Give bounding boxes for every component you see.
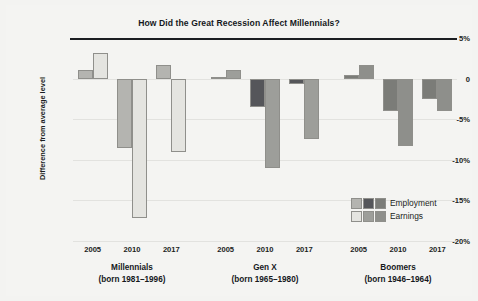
chart-title: How Did the Great Recession Affect Mille… <box>0 18 478 28</box>
group-name: Gen X <box>232 262 299 274</box>
group-name: Boomers <box>365 262 432 274</box>
group-name: Millennials <box>99 262 166 274</box>
bar-earnings <box>304 79 319 140</box>
bar-employment <box>78 70 93 79</box>
group-caption: Millennials(born 1981–1996) <box>99 262 166 285</box>
group-caption: Boomers(born 1946–1964) <box>365 262 432 285</box>
bar-group <box>73 38 191 241</box>
bar-employment <box>156 65 171 79</box>
y-axis-title: Difference from average level <box>38 34 47 224</box>
bar-earnings <box>93 53 108 78</box>
x-tick-label: 2017 <box>296 245 313 254</box>
y-tick-label: -20% <box>428 237 470 246</box>
x-tick-label: 2005 <box>350 245 367 254</box>
y-tick-label: -10% <box>428 155 470 164</box>
bar-earnings <box>171 79 186 152</box>
gridline <box>73 241 457 242</box>
x-axis-tick-labels: 200520102017200520102017200520102017 <box>73 245 457 257</box>
chart-figure: How Did the Great Recession Affect Mille… <box>0 0 478 301</box>
x-tick-label: 2005 <box>84 245 101 254</box>
group-birth-years: (born 1981–1996) <box>99 274 166 286</box>
bar-earnings <box>359 65 374 79</box>
legend-swatch <box>375 198 386 209</box>
bar-earnings <box>226 70 241 78</box>
chart-legend: Employment Earnings <box>351 197 437 223</box>
legend-swatch <box>363 211 374 222</box>
legend-swatch <box>351 211 362 222</box>
legend-swatch <box>363 198 374 209</box>
bar-employment <box>422 79 437 99</box>
bar-employment <box>250 79 265 107</box>
x-tick-label: 2017 <box>163 245 180 254</box>
legend-label-employment: Employment <box>390 198 437 208</box>
x-tick-label: 2010 <box>124 245 141 254</box>
y-tick-label: -5% <box>428 115 470 124</box>
x-tick-label: 2005 <box>217 245 234 254</box>
bar-employment <box>211 77 226 79</box>
bar-earnings <box>398 79 413 146</box>
group-captions: Millennials(born 1981–1996)Gen X(born 19… <box>73 262 457 296</box>
x-tick-label: 2017 <box>429 245 446 254</box>
x-tick-label: 2010 <box>390 245 407 254</box>
bar-earnings <box>132 79 147 219</box>
legend-swatch <box>351 198 362 209</box>
y-axis-tick-labels: Difference from average level <box>23 38 69 241</box>
bar-employment <box>117 79 132 148</box>
bar-group <box>206 38 324 241</box>
legend-swatches-employment <box>351 198 386 209</box>
legend-row-earnings: Earnings <box>351 210 437 222</box>
legend-row-employment: Employment <box>351 197 437 209</box>
x-tick-label: 2010 <box>257 245 274 254</box>
group-caption: Gen X(born 1965–1980) <box>232 262 299 285</box>
bar-employment <box>344 75 359 79</box>
zero-baseline <box>70 38 457 40</box>
bar-employment <box>289 79 304 85</box>
bar-earnings <box>437 79 452 111</box>
bar-employment <box>383 79 398 111</box>
bar-earnings <box>265 79 280 168</box>
legend-swatches-earnings <box>351 211 386 222</box>
group-birth-years: (born 1965–1980) <box>232 274 299 286</box>
legend-swatch <box>375 211 386 222</box>
legend-label-earnings: Earnings <box>390 211 423 221</box>
group-birth-years: (born 1946–1964) <box>365 274 432 286</box>
